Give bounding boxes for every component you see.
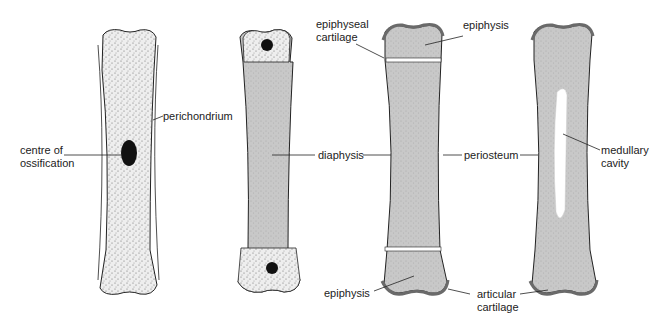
label-epiphyseal-cartilage-1: epiphyseal	[316, 18, 369, 30]
label-perichondrium: perichondrium	[163, 110, 233, 122]
bone-stage-4	[520, 24, 600, 294]
label-medullary-cavity-2: cavity	[601, 157, 629, 169]
label-diaphysis: diaphysis	[318, 149, 364, 161]
label-articular-cartilage-2: cartilage	[477, 301, 519, 313]
label-centre-of-ossification-1: centre of	[20, 144, 63, 156]
medullary-cavity	[554, 89, 567, 218]
ossification-centre	[121, 140, 137, 166]
label-epiphysis-top: epiphysis	[463, 19, 509, 31]
bone-stage-1	[64, 30, 163, 295]
label-epiphysis-bottom: epiphysis	[324, 287, 370, 299]
label-medullary-cavity-1: medullary	[601, 144, 649, 156]
label-periosteum: periosteum	[464, 149, 518, 161]
label-centre-of-ossification-2: ossification	[20, 157, 74, 169]
bone-stage-3	[356, 24, 470, 294]
bone-diagram	[0, 0, 667, 326]
label-articular-cartilage-1: articular	[477, 288, 516, 300]
label-epiphyseal-cartilage-2: cartilage	[316, 31, 358, 43]
